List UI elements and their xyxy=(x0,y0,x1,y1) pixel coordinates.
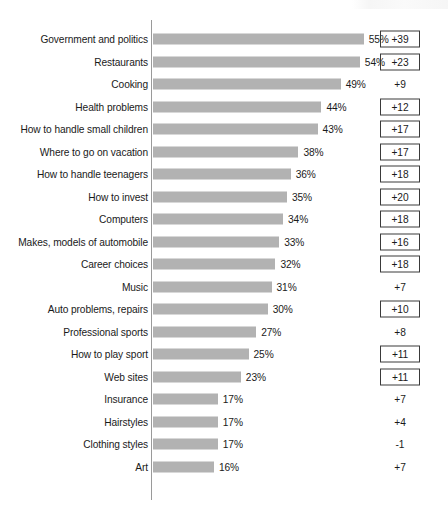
table-row: Health problems44%+12 xyxy=(0,96,448,119)
row-category-label: Computers xyxy=(0,214,148,225)
row-category-label: Auto problems, repairs xyxy=(0,304,148,315)
change-value: +7 xyxy=(380,459,420,474)
bar xyxy=(153,259,276,270)
change-value: +4 xyxy=(380,414,420,429)
bar xyxy=(153,304,268,315)
change-value-boxed: +12 xyxy=(380,98,420,115)
bar-value-label: 30% xyxy=(273,304,293,315)
change-value-boxed: +23 xyxy=(380,53,420,70)
table-row: Clothing styles17%-1 xyxy=(0,433,448,456)
bar-value-label: 31% xyxy=(277,281,297,292)
row-category-label: Career choices xyxy=(0,259,148,270)
row-category-label: Insurance xyxy=(0,394,148,405)
bar-value-label: 23% xyxy=(246,371,266,382)
table-row: How to play sport25%+11 xyxy=(0,343,448,366)
bar xyxy=(153,124,318,135)
bar xyxy=(153,146,299,157)
bar xyxy=(153,371,241,382)
row-category-label: Professional sports xyxy=(0,326,148,337)
table-row: Makes, models of automobile33%+16 xyxy=(0,231,448,254)
bar-value-label: 43% xyxy=(323,124,343,135)
bar-value-label: 36% xyxy=(296,169,316,180)
bar-value-label: 25% xyxy=(254,349,274,360)
table-row: Art16%+7 xyxy=(0,456,448,479)
change-value: -1 xyxy=(380,437,420,452)
bar xyxy=(153,214,284,225)
table-row: Auto problems, repairs30%+10 xyxy=(0,298,448,321)
row-category-label: Music xyxy=(0,281,148,292)
change-value-boxed: +11 xyxy=(380,346,420,363)
table-row: Career choices32%+18 xyxy=(0,253,448,276)
change-value-boxed: +17 xyxy=(380,121,420,138)
row-category-label: How to handle small children xyxy=(0,124,148,135)
bar-value-label: 17% xyxy=(223,416,243,427)
row-category-label: Where to go on vacation xyxy=(0,146,148,157)
change-value-boxed: +16 xyxy=(380,233,420,250)
bar xyxy=(153,461,214,472)
table-row: How to invest35%+20 xyxy=(0,186,448,209)
table-row: Hairstyles17%+4 xyxy=(0,411,448,434)
bar xyxy=(153,326,257,337)
bar xyxy=(153,191,287,202)
bar-value-label: 33% xyxy=(284,236,304,247)
row-category-label: How to invest xyxy=(0,191,148,202)
bar-value-label: 16% xyxy=(219,461,239,472)
bar-value-label: 17% xyxy=(223,394,243,405)
table-row: Government and politics55%+39 xyxy=(0,28,448,51)
bar-value-label: 17% xyxy=(223,439,243,450)
bar xyxy=(153,56,360,67)
table-row: Restaurants54%+23 xyxy=(0,51,448,74)
table-row: Computers34%+18 xyxy=(0,208,448,231)
change-value: +8 xyxy=(380,324,420,339)
table-row: Cooking49%+9 xyxy=(0,73,448,96)
bar xyxy=(153,281,272,292)
bar xyxy=(153,34,364,45)
change-value-boxed: +39 xyxy=(380,31,420,48)
table-row: Web sites23%+11 xyxy=(0,366,448,389)
bar-value-label: 35% xyxy=(292,191,312,202)
table-row: Insurance17%+7 xyxy=(0,388,448,411)
bar-value-label: 44% xyxy=(326,101,346,112)
row-category-label: Makes, models of automobile xyxy=(0,236,148,247)
change-value: +7 xyxy=(380,392,420,407)
bar xyxy=(153,394,218,405)
table-row: Professional sports27%+8 xyxy=(0,321,448,344)
change-value-boxed: +10 xyxy=(380,301,420,318)
change-value: +9 xyxy=(380,77,420,92)
change-value-boxed: +17 xyxy=(380,143,420,160)
row-category-label: How to play sport xyxy=(0,349,148,360)
row-category-label: Health problems xyxy=(0,101,148,112)
table-row: How to handle small children43%+17 xyxy=(0,118,448,141)
row-category-label: Web sites xyxy=(0,371,148,382)
row-category-label: Government and politics xyxy=(0,34,148,45)
change-value-boxed: +11 xyxy=(380,368,420,385)
change-value: +7 xyxy=(380,279,420,294)
bar xyxy=(153,236,280,247)
change-value-boxed: +18 xyxy=(380,256,420,273)
bar xyxy=(153,349,249,360)
bar xyxy=(153,416,218,427)
change-value-boxed: +18 xyxy=(380,211,420,228)
bar xyxy=(153,169,291,180)
bar-value-label: 34% xyxy=(288,214,308,225)
horizontal-bar-chart: Government and politics55%+39Restaurants… xyxy=(0,0,448,519)
change-value-boxed: +20 xyxy=(380,188,420,205)
change-value-boxed: +18 xyxy=(380,166,420,183)
table-row: Where to go on vacation38%+17 xyxy=(0,141,448,164)
bar-value-label: 38% xyxy=(303,146,323,157)
row-category-label: Restaurants xyxy=(0,56,148,67)
row-category-label: Hairstyles xyxy=(0,416,148,427)
row-category-label: How to handle teenagers xyxy=(0,169,148,180)
row-category-label: Art xyxy=(0,461,148,472)
bar-value-label: 32% xyxy=(280,259,300,270)
table-row: Music31%+7 xyxy=(0,276,448,299)
bar xyxy=(153,79,341,90)
table-row: How to handle teenagers36%+18 xyxy=(0,163,448,186)
bar-value-label: 49% xyxy=(346,79,366,90)
bar xyxy=(153,439,218,450)
row-category-label: Clothing styles xyxy=(0,439,148,450)
row-category-label: Cooking xyxy=(0,79,148,90)
bar xyxy=(153,101,322,112)
bar-value-label: 27% xyxy=(261,326,281,337)
